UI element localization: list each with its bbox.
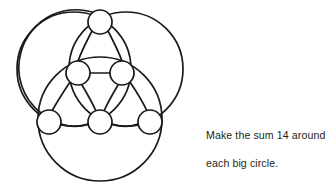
node-inner-left[interactable] [66, 61, 90, 85]
instruction-text: Make the sum 14 around each big circle. [206, 114, 332, 184]
arc-inner-left-to-bottom-left [52, 82, 70, 111]
node-bottom-mid[interactable] [88, 110, 112, 134]
big-circles-group [17, 10, 183, 181]
small-circles-group [37, 10, 162, 134]
puzzle-diagram-svg [0, 0, 200, 193]
node-top[interactable] [88, 10, 112, 34]
instruction-line-2: each big circle. [206, 156, 332, 170]
node-bottom-left[interactable] [37, 110, 61, 134]
node-bottom-right[interactable] [138, 110, 162, 134]
instruction-line-1: Make the sum 14 around [206, 128, 332, 142]
node-inner-right[interactable] [110, 61, 134, 85]
puzzle-diagram [0, 0, 200, 193]
arc-inner-right-to-bottom-right [130, 82, 147, 111]
puzzle-page: Make the sum 14 around each big circle. [0, 0, 334, 193]
